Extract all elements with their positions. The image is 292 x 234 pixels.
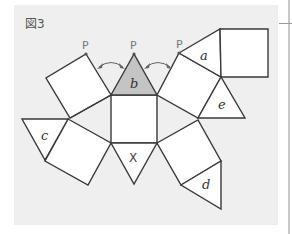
vertex-p-center (132, 52, 135, 55)
arrowhead-right-1 (144, 63, 150, 69)
label-b: b (130, 76, 138, 91)
label-p-center: P (130, 39, 137, 52)
arrowhead-left-2 (119, 63, 125, 69)
net-diagram: P P P b a e c d X (0, 0, 292, 234)
arrowhead-left-1 (97, 63, 103, 69)
label-e: e (218, 97, 226, 112)
central-square (111, 95, 157, 143)
label-x: X (129, 151, 137, 165)
label-a: a (200, 48, 208, 63)
label-p-left: P (82, 39, 89, 52)
label-p-right: P (176, 38, 183, 51)
vertex-p-right (177, 51, 180, 54)
label-c: c (41, 128, 49, 143)
label-d: d (202, 177, 210, 192)
top-right-square (220, 29, 268, 77)
upper-left-square (46, 54, 111, 118)
vertex-p-left (84, 52, 87, 55)
